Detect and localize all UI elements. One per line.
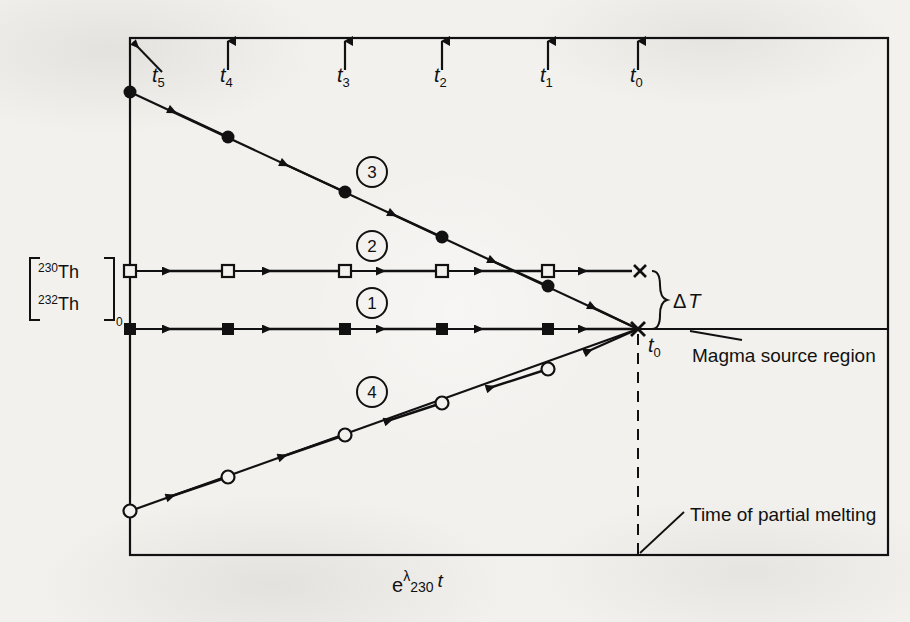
series-4-point-t5: [124, 505, 137, 518]
series-badge-2: 2: [357, 231, 387, 261]
series-2-line: [124, 265, 646, 277]
tick-arrow-t5: [133, 42, 162, 72]
time-label-t4: t4: [220, 64, 233, 90]
series-number-badges: 3 2 1 4: [357, 157, 387, 407]
series-2-point-t2: [436, 265, 448, 277]
series-2-point-t4: [222, 265, 234, 277]
series-badge-3: 3: [357, 157, 387, 187]
series-4-line: [124, 329, 639, 518]
x-axis-label: eλ230t: [392, 568, 443, 596]
series-1-point-t3: [339, 323, 351, 335]
time-label-t0: t0: [630, 64, 643, 90]
series-4-point-t2: [436, 397, 449, 410]
magma-source-region-leader: [690, 331, 742, 340]
series-3-point-t1: [542, 280, 555, 293]
convergence-label-t0: t0: [648, 334, 661, 360]
partial-melting-leader: [640, 512, 684, 553]
th-isotope-evolution-diagram: t5 t4 t3 t2 t1 t0: [0, 0, 910, 622]
delta-t-label: ΔT: [673, 290, 702, 312]
series-3-point-t4: [222, 131, 235, 144]
figure-page: t5 t4 t3 t2 t1 t0: [0, 0, 910, 622]
series-1-line: [124, 323, 638, 335]
svg-text:eλ230t: eλ230t: [392, 568, 443, 596]
series-1-point-t1: [542, 323, 554, 335]
svg-text:1: 1: [367, 294, 376, 313]
partial-melting-label: Time of partial melting: [690, 504, 876, 525]
series-1-point-t5: [124, 323, 136, 335]
series-4-point-t4: [222, 471, 235, 484]
series-1-point-t2: [436, 323, 448, 335]
time-label-t3: t3: [337, 64, 350, 90]
time-label-t2: t2: [434, 64, 447, 90]
svg-text:3: 3: [367, 163, 376, 182]
magma-source-region-label: Magma source region: [692, 345, 876, 366]
series-3-point-t2: [436, 231, 449, 244]
series-3-point-t5: [124, 86, 137, 99]
time-label-t1: t1: [540, 64, 553, 90]
y-axis-label: 230Th 232Th 0: [30, 258, 123, 329]
series-2-end-cross: [634, 265, 646, 277]
series-4-point-t3: [339, 429, 352, 442]
delta-t-brace: [652, 271, 667, 329]
time-axis-labels: t5 t4 t3 t2 t1 t0: [152, 64, 643, 90]
series-3-line: [124, 86, 639, 330]
series-1-point-t4: [222, 323, 234, 335]
series-badge-4: 4: [357, 377, 387, 407]
series-2-point-t5: [124, 265, 136, 277]
series-2-point-t3: [339, 265, 351, 277]
y-axis-subscript: 0: [116, 315, 123, 329]
series-2-point-t1: [542, 265, 554, 277]
time-axis-ticks: [133, 41, 638, 72]
svg-text:2: 2: [367, 237, 376, 256]
figure-frame: [130, 38, 888, 555]
y-axis-denominator: 232Th: [38, 293, 79, 314]
series-badge-1: 1: [357, 288, 387, 318]
series-4-point-t1: [542, 363, 555, 376]
series-3-point-t3: [339, 186, 352, 199]
y-axis-numerator: 230Th: [38, 261, 79, 282]
svg-text:4: 4: [367, 383, 376, 402]
